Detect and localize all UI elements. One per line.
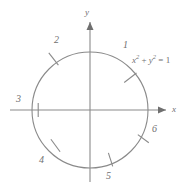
- point-label-6: 6: [152, 124, 157, 134]
- equation-plus: +: [139, 55, 149, 65]
- x-axis-arrowhead: [158, 107, 166, 114]
- unit-circle-figure: [0, 0, 194, 192]
- point-label-1: 1: [123, 40, 128, 50]
- tick-mark-2: [49, 53, 59, 65]
- point-label-2: 2: [54, 35, 59, 45]
- tick-mark-4: [51, 139, 60, 152]
- point-label-4: 4: [39, 155, 44, 165]
- point-label-3: 3: [16, 94, 21, 104]
- circle-equation-label: x2 + y2 = 1: [132, 56, 170, 65]
- tick-mark-1: [124, 73, 136, 83]
- figure-canvas: 1 2 3 4 5 6 x y x2 + y2 = 1: [0, 0, 194, 192]
- x-axis-label: x: [172, 105, 176, 114]
- y-axis-label: y: [85, 8, 89, 17]
- point-label-5: 5: [106, 171, 111, 181]
- equation-equals-one: = 1: [156, 55, 170, 65]
- tick-mark-6: [138, 135, 149, 143]
- y-axis-arrowhead: [87, 22, 94, 30]
